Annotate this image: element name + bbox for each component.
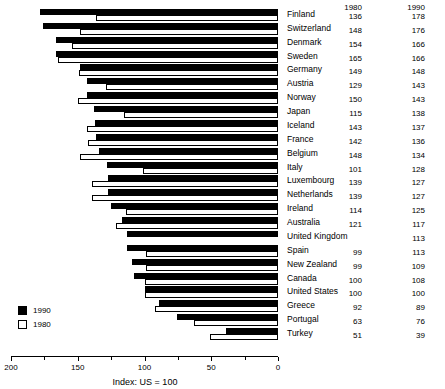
bar-1990 [127,231,278,237]
value-1980: 154 [332,39,362,50]
value-1980: 150 [332,94,362,105]
country-label: United Kingdom [287,231,347,242]
chart-row: Greece9289 [0,299,445,313]
axis-tick-label: 0 [263,363,293,373]
value-1980: 121 [332,219,362,230]
country-label: Netherlands [287,189,333,200]
value-1980: 149 [332,66,362,77]
value-1990: 138 [395,108,425,119]
value-1980: 100 [332,288,362,299]
axis-tick-major [11,357,12,361]
bar-1980 [145,279,279,285]
value-1990: 100 [395,288,425,299]
value-1990: 127 [395,177,425,188]
value-1980: 99 [332,261,362,272]
x-axis: 200150100500 Index: US = 100 [0,356,445,389]
chart-row: Norway150143 [0,91,445,105]
value-1990: 117 [395,219,425,230]
country-label: Italy [287,162,303,173]
value-1990: 76 [395,316,425,327]
value-1990: 109 [395,261,425,272]
country-label: Spain [287,245,309,256]
chart-row: Netherlands139127 [0,188,445,202]
value-1980: 114 [332,205,362,216]
country-label: Germany [287,64,322,75]
bar-1980 [106,84,278,90]
bar-1980 [155,306,278,312]
chart-row: Spain99113 [0,244,445,258]
country-label: Norway [287,92,316,103]
legend-label: 1980 [33,319,51,330]
chart-row: France142136 [0,133,445,147]
value-1990: 166 [395,53,425,64]
value-1980: 92 [332,302,362,313]
value-1980: 115 [332,108,362,119]
country-label: Luxembourg [287,175,334,186]
value-1990: 176 [395,25,425,36]
value-1990: 178 [395,11,425,22]
bar-1980 [194,320,278,326]
value-1990: 128 [395,164,425,175]
value-1980: 101 [332,164,362,175]
chart-row: Japan115138 [0,105,445,119]
value-1990: 137 [395,122,425,133]
bar-1980 [88,140,278,146]
chart-row: Australia121117 [0,216,445,230]
country-label: Portugal [287,314,319,325]
value-1980: 129 [332,80,362,91]
chart-row: Luxembourg139127 [0,174,445,188]
bar-1980 [92,195,278,201]
axis-tick-major [145,357,146,361]
chart-row: Sweden165166 [0,50,445,64]
bar-1980 [78,98,278,104]
value-1990: 143 [395,94,425,105]
value-1980: 148 [332,150,362,161]
bar-1980 [58,57,278,63]
country-label: Sweden [287,51,318,62]
value-1980: 100 [332,275,362,286]
value-1990: 136 [395,136,425,147]
legend-label: 1990 [33,305,51,316]
chart-row: United States100100 [0,285,445,299]
chart-row: Ireland114125 [0,202,445,216]
axis-tick-minor [111,357,112,360]
bar-1980 [143,168,278,174]
value-1980: 139 [332,191,362,202]
bar-1980 [80,154,278,160]
axis-tick-minor [44,357,45,360]
bar-1980 [72,43,278,49]
country-label: Greece [287,300,315,311]
country-label: United States [287,286,338,297]
country-label: Ireland [287,203,313,214]
country-label: Canada [287,273,317,284]
value-1990: 89 [395,302,425,313]
axis-tick-label: 200 [0,363,26,373]
value-1990: 143 [395,80,425,91]
legend-swatch-icon [18,306,27,315]
chart-row: Turkey5139 [0,327,445,341]
bar-1980 [92,181,278,187]
chart-row: Belgium148134 [0,147,445,161]
chart-rows: Finland136178Switzerland148176Denmark154… [0,0,445,350]
bar-1980 [80,29,278,35]
country-label: Denmark [287,37,321,48]
value-1990: 148 [395,66,425,77]
axis-tick-major [278,357,279,361]
value-1980: 63 [332,316,362,327]
country-label: France [287,134,313,145]
value-1990: 134 [395,150,425,161]
country-label: Austria [287,78,313,89]
value-1980: 148 [332,25,362,36]
chart-row: Germany149148 [0,63,445,77]
country-label: Belgium [287,148,318,159]
axis-tick-label: 100 [130,363,160,373]
value-1980: 142 [332,136,362,147]
chart-row: Denmark154166 [0,36,445,50]
bar-1980 [146,265,278,271]
chart-row: Portugal6376 [0,313,445,327]
bar-1980 [87,126,278,132]
value-1990: 108 [395,275,425,286]
bar-1980 [145,292,279,298]
value-1980: 165 [332,53,362,64]
bar-1980 [96,15,278,21]
